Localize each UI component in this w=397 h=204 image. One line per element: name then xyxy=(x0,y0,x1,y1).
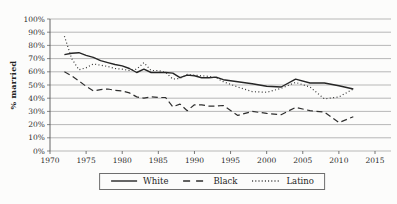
series-line-black xyxy=(64,72,353,123)
x-tick-label: 2010 xyxy=(329,156,348,165)
y-tick-label: 100% xyxy=(24,15,45,24)
y-tick-label: 10% xyxy=(28,133,45,142)
y-tick-label: 80% xyxy=(28,41,45,50)
legend-label-latino: Latino xyxy=(286,177,313,186)
x-tick-label: 1990 xyxy=(185,156,204,165)
y-tick-label: 50% xyxy=(28,81,45,90)
y-tick-label: 40% xyxy=(28,94,45,103)
x-tick-label: 1980 xyxy=(113,156,132,165)
x-tick-label: 1985 xyxy=(149,156,168,165)
legend-label-white: White xyxy=(143,177,168,186)
legend: White Black Latino xyxy=(99,173,325,190)
series-line-white xyxy=(64,53,353,89)
y-tick-label: 30% xyxy=(28,107,45,116)
y-tick-label: 0% xyxy=(33,147,45,156)
dotted-line-icon xyxy=(251,177,281,185)
x-tick-label: 2015 xyxy=(365,156,384,165)
x-tick-label: 1995 xyxy=(221,156,240,165)
legend-item-white: White xyxy=(110,177,168,186)
y-tick-label: 20% xyxy=(28,120,45,129)
y-tick-label: 90% xyxy=(28,28,45,37)
solid-line-icon xyxy=(110,177,138,185)
y-axis-title: % married xyxy=(8,61,18,110)
dashed-line-icon xyxy=(182,177,208,185)
legend-item-latino: Latino xyxy=(251,177,313,186)
legend-label-black: Black xyxy=(213,177,237,186)
chart: 0%10%20%30%40%50%60%70%80%90%100%1970197… xyxy=(0,0,397,204)
x-tick-label: 2005 xyxy=(293,156,312,165)
x-tick-label: 2000 xyxy=(257,156,276,165)
legend-item-black: Black xyxy=(182,177,237,186)
y-tick-label: 60% xyxy=(28,67,45,76)
x-tick-label: 1975 xyxy=(77,156,96,165)
y-tick-label: 70% xyxy=(28,54,45,63)
x-tick-label: 1970 xyxy=(40,156,59,165)
